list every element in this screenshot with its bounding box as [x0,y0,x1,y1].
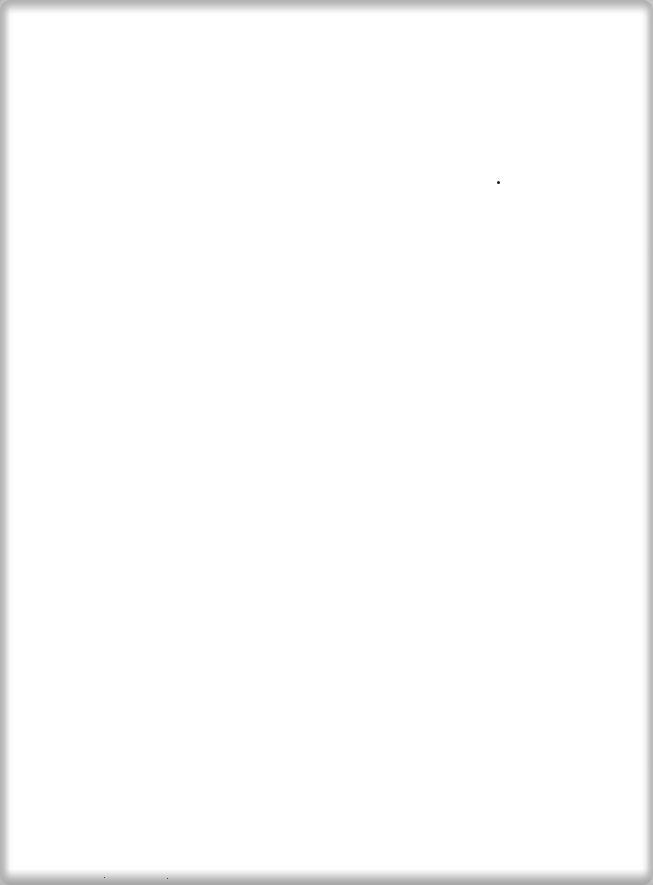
dust-speck [497,181,500,184]
blank-scanned-page [0,0,653,885]
dust-speck [167,878,168,879]
scan-edge-shadow-top [0,0,653,14]
dust-speck [104,877,105,878]
scan-edge-shadow-bottom [0,869,653,885]
scan-edge-shadow-right [647,0,653,885]
scan-edge-shadow-left [0,0,10,885]
